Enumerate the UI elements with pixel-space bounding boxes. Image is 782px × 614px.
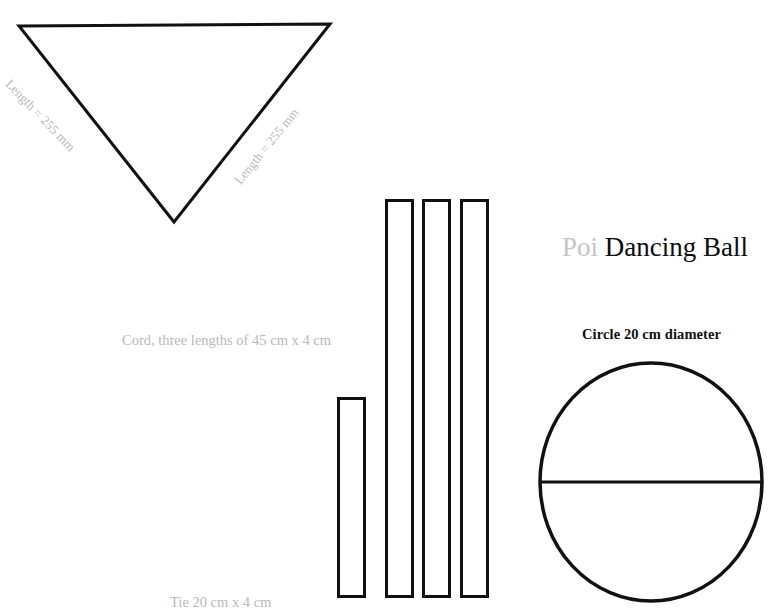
diagram-canvas: Length = 255 mm Length = 255 mm Cord, th… [0,0,782,614]
ball-circle-label: Circle 20 cm diameter [582,327,721,342]
tie-strip-shape [339,399,365,597]
vector-layer [0,0,782,614]
page-title-prefix: Poi [562,232,598,262]
tie-strip-label: Tie 20 cm x 4 cm [170,595,271,610]
cord-strip-shape [462,201,488,597]
page-title: Poi Dancing Ball [562,234,748,261]
cord-strips-label: Cord, three lengths of 45 cm x 4 cm [122,333,331,348]
page-title-main: Dancing Ball [605,232,748,262]
cord-strip-shape [424,201,450,597]
cord-strip-shape [387,201,413,597]
